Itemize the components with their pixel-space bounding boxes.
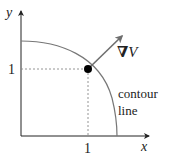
point-marker	[84, 65, 92, 73]
contour-label-line2: line	[118, 103, 138, 118]
contour-label-line1: contour	[118, 86, 158, 101]
contour-diagram: y x 1 1 ∇V contour line	[0, 0, 172, 161]
y-axis-label: y	[4, 5, 13, 20]
y-tick-label: 1	[8, 62, 15, 77]
x-tick-label: 1	[84, 141, 91, 156]
gradient-variable: V	[128, 44, 139, 60]
x-axis-label: x	[140, 139, 148, 154]
gradient-label: ∇V	[117, 44, 139, 60]
nabla-symbol: ∇	[117, 44, 129, 60]
